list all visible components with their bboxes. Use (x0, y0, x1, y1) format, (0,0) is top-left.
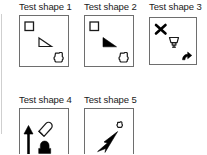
lamp-outline (170, 38, 179, 48)
x-mark-filled (156, 25, 166, 34)
right-triangle-filled (103, 38, 117, 47)
panel-title: Test shape 4 (19, 94, 72, 105)
shape-frame (19, 15, 69, 67)
panel-title: Test shape 3 (149, 1, 202, 12)
panel-test-shape-4: Test shape 4 (19, 94, 72, 154)
panel-test-shape-2: Test shape 2 (84, 1, 137, 67)
pentagon-blob-filled (39, 141, 51, 153)
figure-canvas: Test shape 1 Test shape 2 Test shape 3 (0, 0, 207, 154)
curved-arrow-filled (183, 52, 192, 60)
rounded-cross-outline (54, 53, 63, 63)
square-outline (25, 22, 34, 31)
right-triangle-outline (39, 38, 52, 47)
square-outline (90, 22, 99, 31)
panel-title: Test shape 1 (19, 1, 72, 12)
panel-title: Test shape 2 (84, 1, 137, 12)
small-rounded-cross-outline (117, 122, 122, 128)
diagonal-marker-outline (39, 122, 52, 136)
shape-frame (84, 15, 134, 67)
panel-test-shape-5: Test shape 5 (84, 94, 137, 154)
rounded-cross-outline (119, 53, 128, 63)
panel-title: Test shape 5 (84, 94, 137, 105)
shape-frame (84, 108, 134, 154)
panel-test-shape-1: Test shape 1 (19, 1, 72, 67)
shape-frame (149, 17, 197, 65)
panel-test-shape-3: Test shape 3 (149, 1, 202, 65)
left-margin-rule (1, 14, 2, 134)
up-arrow-filled (24, 126, 33, 155)
dart-arrow-filled (98, 132, 118, 153)
shape-frame (19, 108, 69, 154)
